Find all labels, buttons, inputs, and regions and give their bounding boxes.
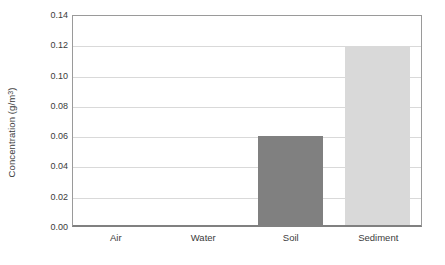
y-axis-title-text: Concentration (g/m: [6, 95, 17, 178]
bar-slot: [334, 16, 421, 225]
y-tick-label: 0.12: [28, 40, 68, 50]
bar-sediment: [345, 46, 409, 225]
y-tick-label: 0.10: [28, 71, 68, 81]
y-tick-label: 0.00: [28, 222, 68, 232]
bar-slot: [247, 16, 334, 225]
bar-chart-figure: Concentration (g/m3) 0.000.020.040.060.0…: [0, 0, 445, 265]
bars-container: [73, 16, 421, 225]
x-tick-label: Water: [160, 232, 248, 248]
y-tick-label: 0.08: [28, 101, 68, 111]
y-tick-label: 0.14: [28, 10, 68, 20]
y-tick-label: 0.02: [28, 192, 68, 202]
y-tick-label: 0.04: [28, 161, 68, 171]
y-axis-title: Concentration (g/m3): [0, 0, 22, 265]
plot-area: [72, 15, 422, 227]
x-tick-label: Sediment: [335, 232, 423, 248]
y-axis-tick-labels: 0.000.020.040.060.080.100.120.14: [28, 15, 68, 227]
bar-slot: [160, 16, 247, 225]
x-tick-label: Soil: [247, 232, 335, 248]
y-axis-title-tail: ): [6, 88, 17, 91]
y-tick-label: 0.06: [28, 131, 68, 141]
x-tick-label: Air: [72, 232, 160, 248]
x-axis-tick-labels: AirWaterSoilSediment: [72, 232, 422, 248]
bar-soil: [258, 136, 322, 225]
bar-slot: [73, 16, 160, 225]
